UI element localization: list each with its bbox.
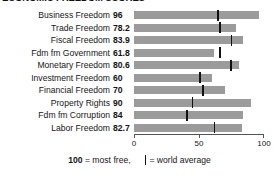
world-average-marker-icon [145,155,147,165]
x-axis-tick [263,134,264,138]
row-plot [134,34,264,47]
chart-row: Financial Freedom70 [0,84,279,97]
row-value: 70 [113,84,133,97]
chart-row: Trade Freedom78.2 [0,22,279,35]
value-bar [134,61,239,69]
legend-world-average-text: = world average [149,155,210,165]
row-value: 90 [113,97,133,110]
x-axis-tick-label: 100 [257,139,270,148]
world-average-marker [217,10,219,21]
row-value: 83.9 [113,34,133,47]
world-average-marker [231,35,233,46]
world-average-marker [202,85,204,96]
row-label: Trade Freedom [0,22,110,35]
row-value: 60 [113,72,133,85]
row-label: Investment Freedom [0,72,110,85]
value-bar [134,124,242,132]
value-bar [134,36,243,44]
row-value: 84 [113,109,133,122]
world-average-marker [192,97,194,108]
chart-row: Investment Freedom60 [0,72,279,85]
row-plot [134,122,264,135]
legend-most-free-text: = most free, [83,155,131,165]
value-bar [134,111,243,119]
legend-most-free-value: 100 [68,155,82,165]
chart-row: Fdm fm Corruption84 [0,109,279,122]
row-value: 61.8 [113,47,133,60]
chart-row: Property Rights90 [0,97,279,110]
row-label: Fdm fm Corruption [0,109,110,122]
row-plot [134,47,264,60]
row-label: Property Rights [0,97,110,110]
row-label: Fdm fm Government [0,47,110,60]
world-average-marker [186,110,188,121]
x-axis-tick [134,134,135,138]
world-average-marker [230,60,232,71]
chart-title: ECONOMIC FREEDOM SCORES [0,0,279,3]
row-plot [134,84,264,97]
chart-row: Monetary Freedom80.6 [0,59,279,72]
row-plot [134,109,264,122]
row-value: 96 [113,9,133,22]
row-plot [134,72,264,85]
value-bar [134,86,225,94]
row-value: 80.6 [113,59,133,72]
row-label: Business Freedom [0,9,110,22]
chart-legend: 100 = most free, = world average [0,155,279,165]
row-label: Financial Freedom [0,84,110,97]
row-plot [134,22,264,35]
value-bar [134,11,259,19]
x-axis: 050100 [134,134,264,138]
world-average-marker [214,122,216,133]
chart-title-clipped: ECONOMIC FREEDOM SCORES [0,0,279,6]
chart-rows: Business Freedom96Trade Freedom78.2Fisca… [0,9,279,134]
world-average-marker [219,22,221,33]
chart-row: Fiscal Freedom83.9 [0,34,279,47]
world-average-marker [219,47,221,58]
chart-row: Business Freedom96 [0,9,279,22]
row-value: 78.2 [113,22,133,35]
row-plot [134,9,264,22]
economic-freedom-chart: ECONOMIC FREEDOM SCORES Business Freedom… [0,0,279,176]
x-axis-tick-label: 0 [132,139,136,148]
row-label: Fiscal Freedom [0,34,110,47]
row-plot [134,97,264,110]
row-plot [134,59,264,72]
world-average-marker [199,72,201,83]
chart-row: Fdm fm Government61.8 [0,47,279,60]
x-axis-tick [199,134,200,138]
row-label: Monetary Freedom [0,59,110,72]
legend-most-free: 100 = most free, [68,155,130,165]
x-axis-tick-label: 50 [195,139,204,148]
row-value: 82.7 [113,122,133,135]
row-label: Labor Freedom [0,122,110,135]
value-bar [134,49,214,57]
chart-row: Labor Freedom82.7 [0,122,279,135]
